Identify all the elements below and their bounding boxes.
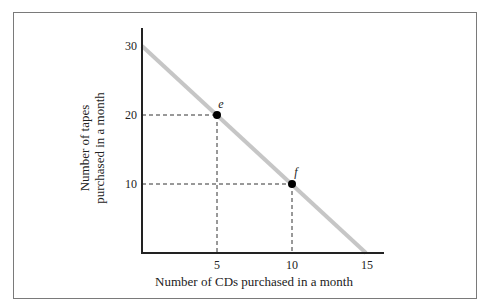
x-tick-5: 5	[214, 258, 220, 273]
point-f	[288, 180, 296, 188]
y-axis-label-line1: Number of tapes	[77, 68, 92, 228]
y-axis-label-line2: purchased in a month	[92, 68, 107, 228]
y-tick-20: 20	[125, 108, 137, 123]
point-e	[213, 111, 221, 119]
budget-line	[142, 46, 366, 253]
x-tick-15: 15	[361, 258, 373, 273]
point-f-label: f	[294, 165, 297, 180]
x-axis-label: Number of CDs purchased in a month	[155, 274, 353, 290]
chart-plot	[0, 0, 487, 306]
point-e-label: e	[218, 97, 223, 112]
y-tick-30: 30	[125, 39, 137, 54]
x-tick-10: 10	[286, 258, 298, 273]
y-tick-10: 10	[125, 177, 137, 192]
y-axis-label: Number of tapes purchased in a month	[77, 68, 107, 228]
